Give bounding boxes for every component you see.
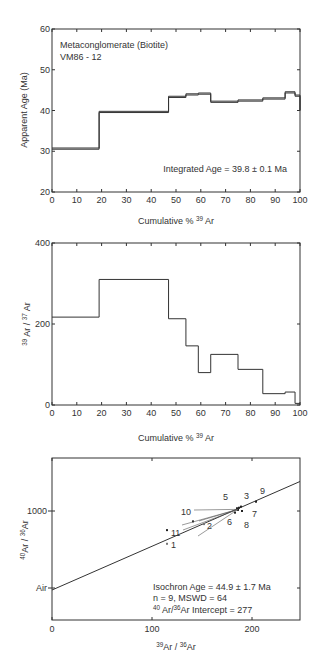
- x-tick-label: 20: [97, 408, 107, 418]
- x-tick-label: 40: [146, 195, 156, 205]
- point-label: 9: [260, 486, 265, 496]
- x-tick-label: 40: [146, 408, 156, 418]
- x-tick-label: 200: [244, 624, 259, 634]
- y-tick-label: 60: [40, 24, 50, 34]
- point-label: 1: [171, 540, 176, 550]
- data-point: [238, 507, 240, 509]
- y-tick-label: 200: [35, 319, 50, 329]
- data-point: [166, 529, 168, 531]
- y-tick-label: 20: [40, 187, 50, 197]
- point-label: 8: [244, 520, 249, 530]
- label-leader-line: [199, 509, 238, 521]
- x-tick-label: 30: [121, 195, 131, 205]
- x-tick-label: 50: [171, 195, 181, 205]
- point-label: 10: [181, 507, 191, 517]
- x-tick-label: 50: [171, 408, 181, 418]
- x-tick-label: 90: [270, 195, 280, 205]
- x-tick-label: 0: [49, 624, 54, 634]
- figure: 01020304050607080901002030405060Metacong…: [0, 0, 320, 664]
- n-mswd-label: n = 9, MSWD = 64: [153, 593, 227, 603]
- x-axis-label: Cumulative % 39 Ar: [138, 432, 214, 443]
- x-tick-label: 100: [292, 195, 307, 205]
- point-label: 11: [171, 528, 180, 538]
- y-tick-label: 40: [40, 106, 50, 116]
- x-tick-label: 60: [196, 408, 206, 418]
- x-tick-label: 0: [49, 195, 54, 205]
- x-tick-label: 100: [292, 408, 307, 418]
- integrated-age-label: Integrated Age = 39.8 ± 0.1 Ma: [163, 164, 287, 174]
- age-step-line: [52, 93, 300, 149]
- x-tick-label: 60: [196, 195, 206, 205]
- x-tick-label: 80: [245, 408, 255, 418]
- x-tick-label: 80: [245, 195, 255, 205]
- y-tick-label: Air: [36, 583, 47, 593]
- y-tick-label: 0: [45, 400, 50, 410]
- point-label: 5: [223, 492, 228, 502]
- point-label: 7: [252, 509, 257, 519]
- data-point: [166, 543, 168, 545]
- ca-k-ratio-chart: 01020304050607080901000200400Cumulative …: [21, 238, 308, 443]
- y-tick-label: 30: [40, 146, 50, 156]
- x-axis-label: Cumulative % 39 Ar: [138, 215, 214, 226]
- ratio-step-line: [52, 279, 300, 403]
- y-tick-label: 1000: [27, 506, 47, 516]
- data-point: [241, 510, 243, 512]
- sample-name: Metaconglomerate (Biotite): [60, 40, 168, 50]
- intercept-label: 40 Ar/36Ar Intercept = 277: [153, 604, 252, 615]
- x-tick-label: 10: [72, 408, 82, 418]
- x-tick-label: 90: [270, 408, 280, 418]
- x-tick-label: 20: [97, 195, 107, 205]
- data-point: [255, 501, 257, 503]
- x-tick-label: 100: [144, 624, 159, 634]
- sample-id: VM86 - 12: [60, 52, 102, 62]
- isochron-chart: 01002001000Air123567891011Isochron Age =…: [19, 458, 300, 652]
- isochron-age-label: Isochron Age = 44.9 ± 1.7 Ma: [153, 582, 271, 592]
- y-axis-label: 39 Ar / 37 Ar: [21, 302, 32, 346]
- data-point: [203, 523, 205, 525]
- y-axis-label: Apparent Age (Ma): [19, 72, 29, 148]
- point-label: 6: [227, 517, 232, 527]
- y-tick-label: 50: [40, 65, 50, 75]
- x-tick-label: 70: [221, 408, 231, 418]
- x-tick-label: 30: [121, 408, 131, 418]
- x-axis-label: 39Ar / 36Ar: [156, 641, 196, 652]
- point-label: 3: [244, 491, 249, 501]
- age-step-line: [52, 92, 300, 148]
- x-tick-label: 70: [221, 195, 231, 205]
- x-tick-label: 0: [49, 408, 54, 418]
- y-tick-label: 400: [35, 238, 50, 248]
- age-spectrum-chart: 01020304050607080901002030405060Metacong…: [19, 24, 308, 226]
- x-tick-label: 10: [72, 195, 82, 205]
- data-point: [240, 506, 242, 508]
- label-leader-line: [194, 509, 238, 510]
- y-axis-label: 40Ar / 36Ar: [19, 520, 30, 560]
